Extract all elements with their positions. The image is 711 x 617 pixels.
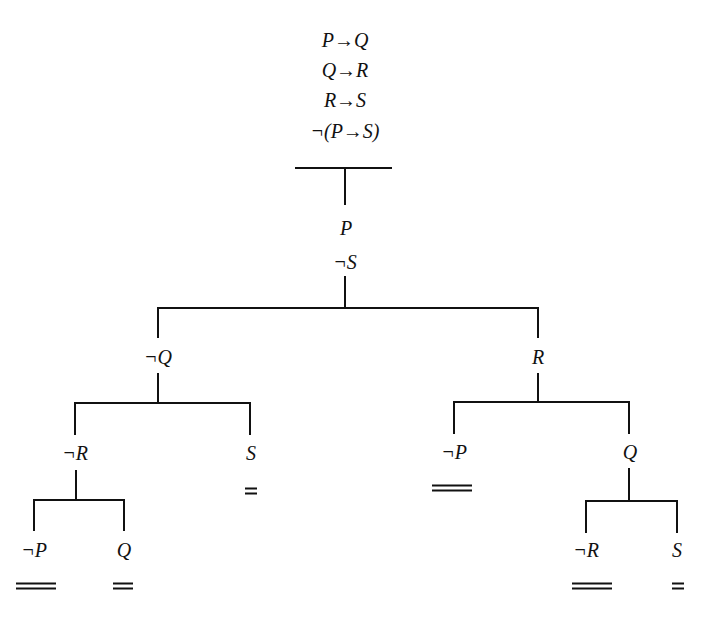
branch-right-left-not-p: ¬P	[441, 442, 467, 462]
branch-right-r: R	[532, 347, 544, 367]
trunk-node-p: P	[340, 218, 352, 238]
branch-left-left-not-r: ¬R	[62, 443, 88, 463]
negated-conclusion: ¬(P→S)	[310, 121, 379, 141]
branch-right-right-q: Q	[623, 442, 637, 462]
leaf-s: S	[672, 540, 682, 560]
premise-3: R→S	[324, 90, 366, 110]
closure-mark-single	[245, 488, 257, 495]
closure-mark-single	[113, 583, 133, 590]
premise-2: Q→R	[322, 60, 369, 80]
closure-mark-double	[432, 485, 472, 492]
branch-left-right-s: S	[246, 443, 256, 463]
premise-1: P→Q	[322, 30, 369, 50]
closure-mark-single	[672, 583, 684, 590]
branch-left-not-q: ¬Q	[144, 347, 172, 367]
closure-mark-double	[572, 583, 612, 590]
closure-mark-double	[16, 583, 56, 590]
leaf-q: Q	[117, 540, 131, 560]
leaf-not-p: ¬P	[21, 540, 47, 560]
leaf-not-r: ¬R	[573, 540, 599, 560]
trunk-node-not-s: ¬S	[333, 252, 357, 272]
